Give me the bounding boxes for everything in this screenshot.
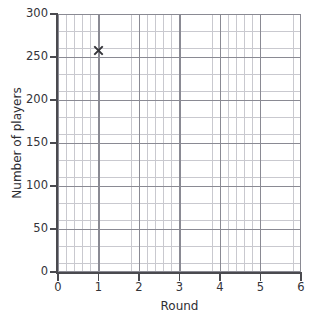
y-axis-tick [50,228,57,230]
y-axis-tick-label: 300 [26,8,48,20]
y-axis-title: Number of players [8,14,26,272]
y-axis-tick-label: 250 [26,51,48,63]
y-axis-tick-label: 0 [41,266,48,278]
y-axis-tick [50,56,57,58]
x-axis-tick-label: 0 [54,282,61,294]
x-axis-tick-label: 1 [95,282,102,294]
y-axis-tick [50,271,57,273]
x-axis-tick-label: 4 [216,282,223,294]
x-axis-tick-label: 6 [297,282,304,294]
y-axis-tick-label: 50 [33,223,48,235]
data-point-marker [93,45,104,56]
y-axis-tick [50,13,57,15]
y-axis-tick [50,99,57,101]
x-axis-tick-label: 5 [257,282,264,294]
y-axis-tick [50,185,57,187]
y-axis-tick-label: 150 [26,137,48,149]
grid-right-edge [300,14,301,272]
plot-area [58,14,301,272]
y-axis-tick-label: 100 [26,180,48,192]
y-axis-tick-label: 200 [26,94,48,106]
x-axis-tick-label: 3 [176,282,183,294]
x-axis-tick-label: 2 [135,282,142,294]
major-gridlines [58,14,301,272]
chart-figure: 050100150200250300 0123456 Number of pla… [0,0,320,329]
x-axis-title: Round [58,300,301,312]
minor-gridlines [58,14,301,272]
y-axis-tick [50,142,57,144]
